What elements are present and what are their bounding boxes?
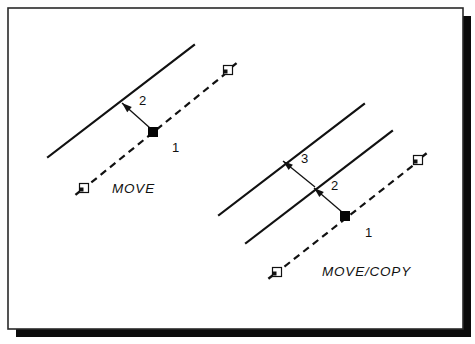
move-step-label-2: 2 bbox=[139, 93, 146, 108]
move-copy-caption: MOVE/COPY bbox=[322, 264, 411, 279]
frame-border bbox=[8, 8, 463, 329]
copy-base-point-marker bbox=[341, 212, 350, 221]
move-step-label-1: 1 bbox=[172, 140, 179, 155]
move-base-point-marker bbox=[149, 128, 158, 137]
move-caption: MOVE bbox=[112, 181, 155, 196]
copy-step-label-2: 2 bbox=[331, 178, 338, 193]
copy-step-label-3: 3 bbox=[301, 151, 308, 166]
diagram-canvas: 2 1 MOVE 2 bbox=[0, 0, 475, 344]
figure-root: 2 1 MOVE 2 bbox=[0, 0, 475, 344]
copy-step-label-1: 1 bbox=[365, 225, 372, 240]
